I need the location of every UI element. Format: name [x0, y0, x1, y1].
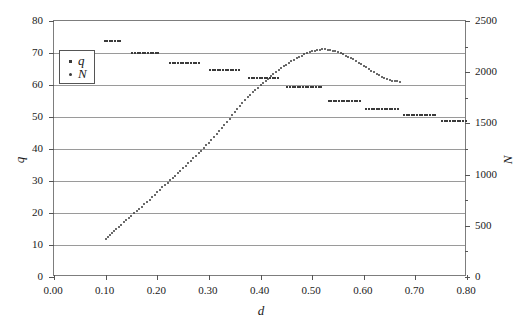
chart-legend: q N	[59, 50, 95, 84]
data-point	[105, 238, 107, 240]
data-point	[198, 152, 200, 154]
chart-container: 01020304050607080 05001000150020002500 0…	[0, 0, 527, 326]
data-point	[378, 74, 380, 76]
x-axis-tick-label: 0.60	[340, 285, 386, 296]
tick-mark	[465, 21, 470, 22]
data-point	[280, 67, 282, 69]
data-point	[216, 133, 218, 135]
data-point	[187, 162, 189, 164]
x-axis-tick-label: 0.40	[237, 285, 283, 296]
data-point	[347, 56, 349, 58]
left-axis-tick-label: 70	[3, 47, 43, 58]
gridline	[54, 117, 465, 118]
data-point	[324, 48, 326, 50]
data-point	[128, 217, 130, 219]
tick-mark	[415, 275, 416, 280]
tick-mark	[49, 149, 54, 150]
data-point	[275, 71, 277, 73]
tick-mark	[465, 123, 470, 124]
data-point	[154, 194, 156, 196]
dot-marker-icon	[64, 65, 76, 83]
data-point	[265, 80, 267, 82]
left-axis-tick-label: 80	[3, 15, 43, 26]
data-point	[342, 53, 344, 55]
data-point	[239, 105, 241, 107]
data-point	[172, 177, 174, 179]
data-point	[386, 78, 388, 80]
left-axis-tick-label: 60	[3, 79, 43, 90]
data-point	[397, 108, 399, 110]
data-point	[254, 89, 256, 91]
right-axis-title: N	[500, 150, 516, 170]
data-point	[262, 82, 264, 84]
data-point	[113, 230, 115, 232]
data-point	[267, 78, 269, 80]
left-axis-tick-label: 30	[3, 175, 43, 186]
data-point	[238, 69, 240, 71]
right-axis-tick-label: 2500	[475, 15, 519, 26]
data-point	[288, 62, 290, 64]
data-point	[272, 73, 274, 75]
x-axis-tick-label: 0.30	[185, 285, 231, 296]
data-point	[241, 102, 243, 104]
gridline	[54, 213, 465, 214]
data-point	[118, 226, 120, 228]
data-point	[283, 65, 285, 67]
data-point	[174, 175, 176, 177]
data-point	[221, 127, 223, 129]
right-axis-tick-label: 2000	[475, 66, 519, 77]
x-axis-tick-label: 0.10	[82, 285, 128, 296]
tick-mark-minor	[465, 149, 468, 150]
data-point	[198, 62, 200, 64]
data-point	[138, 208, 140, 210]
tick-mark	[209, 275, 210, 280]
data-point	[111, 232, 113, 234]
data-point	[115, 228, 117, 230]
x-axis-title: d	[241, 303, 281, 319]
data-point	[119, 40, 121, 42]
data-point	[223, 124, 225, 126]
data-point	[159, 189, 161, 191]
data-point	[192, 157, 194, 159]
legend-item-n: N	[64, 67, 87, 80]
tick-mark	[157, 275, 158, 280]
data-point	[107, 236, 109, 238]
data-point	[391, 80, 393, 82]
right-axis-tick-label: 500	[475, 220, 519, 231]
data-point	[396, 80, 398, 82]
data-point	[156, 191, 158, 193]
x-axis-tick-label: 0.70	[391, 285, 437, 296]
data-point	[136, 210, 138, 212]
data-point	[130, 215, 132, 217]
tick-mark	[465, 175, 470, 176]
data-point	[141, 206, 143, 208]
data-point	[164, 184, 166, 186]
data-point	[151, 196, 153, 198]
x-axis-tick-label: 0.00	[30, 285, 76, 296]
data-point	[190, 160, 192, 162]
data-point	[285, 64, 287, 66]
data-point	[360, 63, 362, 65]
tick-mark	[261, 275, 262, 280]
x-axis-tick-label: 0.20	[133, 285, 179, 296]
data-point	[157, 52, 159, 54]
data-point	[149, 199, 151, 201]
data-point	[329, 49, 331, 51]
data-point	[143, 203, 145, 205]
data-point	[208, 142, 210, 144]
tick-mark	[467, 275, 468, 280]
data-point	[123, 221, 125, 223]
tick-mark	[54, 275, 55, 280]
left-axis-tick-label: 0	[3, 271, 43, 282]
data-point	[320, 86, 322, 88]
data-point	[205, 144, 207, 146]
right-axis-tick-label: 1000	[475, 169, 519, 180]
left-axis-title: q	[12, 150, 28, 170]
gridline	[54, 181, 465, 182]
data-point	[359, 100, 361, 102]
x-axis-tick-label: 0.50	[288, 285, 334, 296]
data-point	[182, 167, 184, 169]
data-point	[247, 96, 249, 98]
tick-mark	[106, 275, 107, 280]
data-point	[195, 155, 197, 157]
